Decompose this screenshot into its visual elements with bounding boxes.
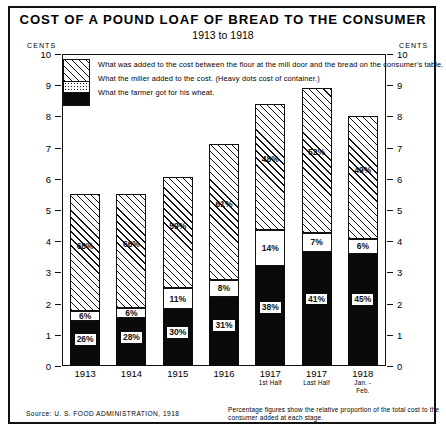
bar-segment-bot: 38% xyxy=(255,266,285,366)
x-axis-label-year: 1915 xyxy=(167,368,188,379)
percentage-note: Percentage figures show the relative pro… xyxy=(228,406,446,422)
y-tick xyxy=(387,272,393,273)
y-tick xyxy=(55,304,61,305)
y-tick xyxy=(387,366,393,367)
x-axis-label-sub: 1st Half xyxy=(259,379,282,387)
y-tick-label: 7 xyxy=(397,142,402,153)
y-tick xyxy=(55,85,61,86)
y-tick-label: 0 xyxy=(397,361,402,372)
segment-percent-label: 52% xyxy=(306,147,327,158)
y-tick-label: 10 xyxy=(40,49,51,60)
segment-percent-label: 49% xyxy=(352,165,373,176)
y-tick xyxy=(387,148,393,149)
y-tick xyxy=(55,179,61,180)
segment-percent-label: 48% xyxy=(260,154,281,165)
chart-page: COST OF A POUND LOAF OF BREAD TO THE CON… xyxy=(0,0,446,433)
y-tick-label: 5 xyxy=(46,205,51,216)
y-tick xyxy=(387,335,393,336)
y-tick-label: 3 xyxy=(46,267,51,278)
y-tick-label: 4 xyxy=(397,236,402,247)
segment-percent-label: 26% xyxy=(75,334,96,345)
bar-1914: 28%6%66% xyxy=(116,194,146,366)
x-axis-label-sub: Jan. - Feb. xyxy=(351,379,374,395)
y-tick xyxy=(387,54,393,55)
bar-segment-mid: 7% xyxy=(302,233,332,252)
segment-percent-label: 31% xyxy=(213,320,234,331)
bar-segment-top: 52% xyxy=(302,88,332,232)
chart-legend: What was added to the cost between the f… xyxy=(63,59,444,106)
bar-segment-top: 59% xyxy=(163,177,193,288)
legend-label-bot: What the farmer got for his wheat. xyxy=(98,88,444,97)
x-axis-label-year: 1914 xyxy=(121,368,142,379)
y-tick-label: 1 xyxy=(46,329,51,340)
bar-segment-mid: 6% xyxy=(70,311,100,321)
x-axis-label: 19171st Half xyxy=(259,368,282,387)
y-tick-label: 9 xyxy=(46,80,51,91)
segment-percent-label: 28% xyxy=(121,332,142,343)
y-tick xyxy=(55,335,61,336)
segment-percent-label: 6% xyxy=(124,309,138,318)
y-tick xyxy=(55,272,61,273)
segment-percent-label: 11% xyxy=(168,295,187,304)
x-axis-label-sub: Last Half xyxy=(303,379,330,387)
bar-1917: 41%7%52% xyxy=(302,88,332,366)
y-tick xyxy=(387,241,393,242)
bar-1913: 26%6%68% xyxy=(70,194,100,366)
y-tick xyxy=(387,179,393,180)
legend-label-top: What was added to the cost between the f… xyxy=(98,60,444,69)
y-tick-label: 3 xyxy=(397,267,402,278)
segment-percent-label: 45% xyxy=(352,294,373,305)
segment-percent-label: 38% xyxy=(260,302,281,313)
x-axis-label: 1918Jan. - Feb. xyxy=(351,368,374,395)
bar-segment-bot: 41% xyxy=(302,252,332,366)
bar-segment-mid: 6% xyxy=(348,239,378,254)
y-tick-label: 6 xyxy=(397,173,402,184)
segment-percent-label: 8% xyxy=(217,284,231,293)
page-subtitle: 1913 to 1918 xyxy=(0,29,446,41)
bar-segment-bot: 30% xyxy=(163,309,193,366)
bar-segment-mid: 11% xyxy=(163,288,193,309)
y-tick-label: 2 xyxy=(46,298,51,309)
bar-segment-top: 61% xyxy=(209,144,239,279)
bar-segment-bot: 28% xyxy=(116,318,146,366)
bar-segment-mid: 14% xyxy=(255,230,285,267)
y-tick xyxy=(55,148,61,149)
legend-swatch-hatched xyxy=(64,60,89,81)
y-tick-label: 2 xyxy=(397,298,402,309)
segment-percent-label: 30% xyxy=(167,327,188,338)
x-axis-label: 1914 xyxy=(121,368,142,379)
segment-percent-label: 59% xyxy=(167,221,188,232)
segment-percent-label: 14% xyxy=(261,244,280,253)
y-tick-label: 8 xyxy=(397,111,402,122)
segment-percent-label: 68% xyxy=(75,241,96,252)
bar-1918: 45%6%49% xyxy=(348,116,378,366)
segment-percent-label: 66% xyxy=(121,239,142,250)
bar-segment-top: 66% xyxy=(116,194,146,307)
y-tick-label: 10 xyxy=(397,49,408,60)
bar-segment-top: 48% xyxy=(255,104,285,230)
y-tick xyxy=(55,54,61,55)
bar-1916: 31%8%61% xyxy=(209,144,239,366)
y-tick xyxy=(55,366,61,367)
legend-swatch-dotted xyxy=(64,81,89,93)
bar-segment-mid: 8% xyxy=(209,280,239,298)
x-axis-label: 1917Last Half xyxy=(303,368,330,387)
source-note: Source: U. S. FOOD ADMINISTRATION, 1918 xyxy=(26,410,179,417)
y-tick-label: 5 xyxy=(397,205,402,216)
bar-segment-mid: 6% xyxy=(116,308,146,318)
legend-swatch-solid xyxy=(64,93,89,105)
bar-segment-bot: 26% xyxy=(70,321,100,366)
bar-segment-bot: 31% xyxy=(209,297,239,366)
bar-1915: 30%11%59% xyxy=(163,177,193,366)
segment-percent-label: 7% xyxy=(309,238,323,247)
y-tick xyxy=(387,116,393,117)
bar-segment-bot: 45% xyxy=(348,254,378,366)
bar-1917: 38%14%48% xyxy=(255,104,285,366)
y-tick-label: 0 xyxy=(46,361,51,372)
segment-percent-label: 61% xyxy=(213,199,234,210)
x-axis-label-year: 1917 xyxy=(303,368,330,379)
x-axis-label-year: 1916 xyxy=(213,368,234,379)
x-axis-label: 1916 xyxy=(213,368,234,379)
legend-label-mid: What the miller added to the cost. (Heav… xyxy=(98,74,444,83)
x-axis-label-year: 1917 xyxy=(259,368,282,379)
